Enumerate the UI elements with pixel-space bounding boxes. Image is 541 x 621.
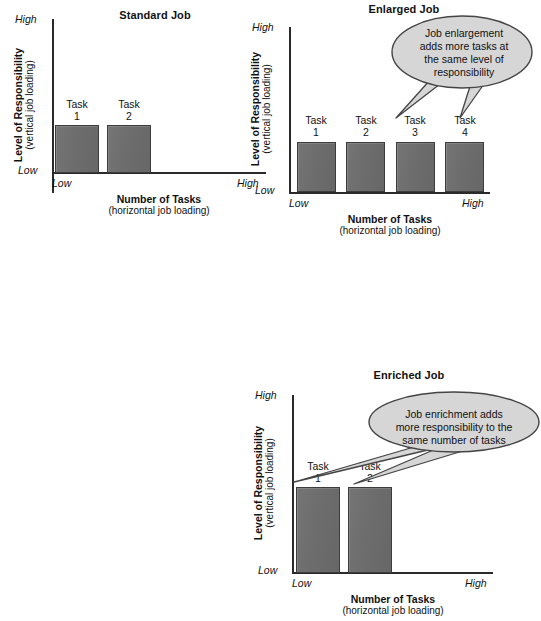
y-axis-label-enlarged: Level of Responsibility (vertical job lo… (249, 34, 273, 184)
y-tick-high-enriched: High (255, 389, 277, 401)
callout-enlarged-text: Job enlargement adds more tasks at the s… (394, 27, 534, 79)
y-axis-label-sub-enriched: (vertical job loading) (264, 408, 276, 558)
x-axis-sublabel-standard: (horizontal job loading) (69, 205, 249, 216)
panel-enlarged-job: Enlarged Job High Low Low High Level of … (236, 0, 541, 232)
callout-enlarged-line-1: Job enlargement (425, 27, 503, 39)
bar-label-bottom-enlarged-3: 3 (412, 126, 418, 138)
y-axis-enlarged (289, 27, 291, 193)
x-tick-high-enriched: High (465, 577, 487, 589)
bar-label-bottom-standard-1: 1 (74, 110, 80, 122)
bar-standard-task-1 (55, 125, 99, 173)
y-tick-low-enlarged: Low (255, 184, 274, 196)
x-tick-high-enlarged: High (462, 197, 484, 209)
y-axis-label-sub-standard: (vertical job loading) (24, 30, 36, 180)
y-axis-label-sub-enlarged: (vertical job loading) (261, 34, 273, 184)
x-axis-sublabel-enlarged: (horizontal job loading) (300, 225, 480, 236)
bar-label-enlarged-task-2: Task 2 (339, 114, 393, 138)
callout-enlarged-line-2: adds more tasks at (420, 40, 509, 52)
callout-enlarged-line-3: the same level of (424, 53, 503, 65)
bar-label-standard-task-2: Task 2 (102, 98, 156, 122)
y-tick-low-enriched: Low (258, 564, 277, 576)
bar-label-top-standard-1: Task (66, 98, 88, 110)
callout-enriched-line-2: more responsibility to the (396, 421, 513, 433)
bar-label-bottom-standard-2: 2 (126, 110, 132, 122)
callout-enriched-text: Job enrichment adds more responsibility … (364, 408, 541, 447)
x-axis-label-standard: Number of Tasks (69, 193, 249, 205)
bar-label-top-enlarged-1: Task (305, 114, 327, 126)
x-axis-label-enlarged: Number of Tasks (300, 213, 480, 225)
y-axis-label-main-enriched: Level of Responsibility (252, 408, 264, 558)
y-axis-label-main-standard: Level of Responsibility (12, 30, 24, 180)
bar-label-top-standard-2: Task (118, 98, 140, 110)
bar-label-enlarged-task-4: Task 4 (438, 114, 492, 138)
bar-label-standard-task-1: Task 1 (50, 98, 104, 122)
bar-label-top-enlarged-3: Task (404, 114, 426, 126)
callout-enlarged-line-4: responsibility (434, 66, 495, 78)
bar-enlarged-task-4 (445, 142, 484, 192)
bar-enlarged-task-2 (346, 142, 385, 192)
x-axis-enlarged (289, 192, 490, 194)
y-tick-high-enlarged: High (252, 21, 274, 33)
x-tick-low-standard: Low (52, 177, 71, 189)
x-tick-low-enriched: Low (292, 577, 311, 589)
x-axis-sublabel-enriched: (horizontal job loading) (303, 605, 483, 616)
y-axis-label-standard: Level of Responsibility (vertical job lo… (12, 30, 36, 180)
y-axis-label-enriched: Level of Responsibility (vertical job lo… (252, 408, 276, 558)
y-axis-label-main-enlarged: Level of Responsibility (249, 34, 261, 184)
callout-enriched-line-1: Job enrichment adds (405, 408, 502, 420)
x-tick-low-enlarged: Low (289, 197, 308, 209)
callout-enriched-line-3: same number of tasks (402, 434, 505, 446)
bar-enlarged-task-3 (396, 142, 435, 192)
bar-label-bottom-enlarged-2: 2 (363, 126, 369, 138)
x-axis-label-enriched: Number of Tasks (303, 593, 483, 605)
chart-title-enriched: Enriched Job (349, 369, 469, 381)
bar-standard-task-2 (107, 125, 151, 173)
panel-enriched-job: Enriched Job High Low Low High Level of … (236, 366, 541, 621)
bar-label-bottom-enlarged-4: 4 (462, 126, 468, 138)
bar-label-enlarged-task-1: Task 1 (289, 114, 343, 138)
bar-enlarged-task-1 (297, 142, 336, 192)
chart-title-standard: Standard Job (95, 9, 215, 21)
y-tick-high-standard: High (15, 13, 37, 25)
bar-label-bottom-enlarged-1: 1 (313, 126, 319, 138)
bar-label-top-enlarged-4: Task (454, 114, 476, 126)
bar-label-top-enlarged-2: Task (355, 114, 377, 126)
